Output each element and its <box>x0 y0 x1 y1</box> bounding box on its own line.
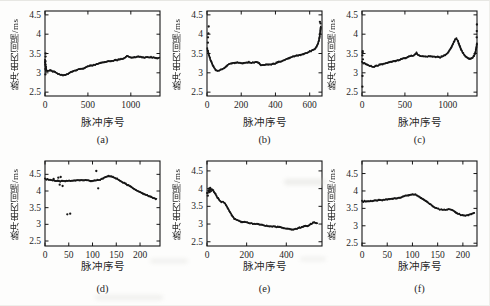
data-points <box>361 193 475 217</box>
x-axis-label: 脉冲序号 <box>362 114 477 129</box>
svg-text:2.5: 2.5 <box>346 87 358 97</box>
plot-frame <box>362 11 477 96</box>
svg-text:4.5: 4.5 <box>191 10 203 20</box>
scan-artifact <box>284 179 326 185</box>
svg-text:4.5: 4.5 <box>346 10 358 20</box>
svg-text:3: 3 <box>198 68 203 78</box>
svg-text:3.5: 3.5 <box>191 201 203 211</box>
subplot-c: 脉冲串内间隔/ms 2.533.544.505001000 脉冲序号 (c) <box>317 1 483 151</box>
plot-area-e: 2.533.544.50200400 <box>162 153 328 265</box>
svg-text:4: 4 <box>353 186 358 196</box>
svg-text:3: 3 <box>198 219 203 229</box>
subplot-f: 脉冲串内间隔/ms 2.533.544.5050100150200 脉冲序号 (… <box>317 153 483 306</box>
svg-text:3.5: 3.5 <box>29 203 41 213</box>
data-curve <box>207 189 318 229</box>
data-points <box>206 21 321 72</box>
plot-area-c: 2.533.544.505001000 <box>317 1 483 113</box>
svg-text:0: 0 <box>43 100 48 110</box>
data-curve <box>362 39 477 67</box>
data-points <box>44 170 157 216</box>
svg-text:4.5: 4.5 <box>191 166 203 176</box>
axis-ticks <box>45 11 160 96</box>
svg-text:2.5: 2.5 <box>346 238 358 248</box>
plot-area-f: 2.533.544.5050100150200 <box>317 153 483 265</box>
svg-text:4: 4 <box>353 29 358 39</box>
scan-artifact <box>300 257 326 261</box>
scan-artifact <box>95 295 163 300</box>
subplot-caption-e: (e) <box>207 283 322 294</box>
svg-text:2.5: 2.5 <box>29 87 41 97</box>
x-axis-label: 脉冲序号 <box>207 114 322 129</box>
x-axis-label: 脉冲序号 <box>362 258 477 273</box>
svg-text:0: 0 <box>205 100 210 110</box>
data-points <box>44 52 160 76</box>
subplot-caption-c: (c) <box>362 134 477 145</box>
plot-area-d: 2.533.544.5050100150200 <box>0 153 166 265</box>
svg-text:4.5: 4.5 <box>29 169 41 179</box>
subplot-e: 脉冲串内间隔/ms 2.533.544.50200400 脉冲序号 (e) <box>162 153 328 306</box>
svg-text:500: 500 <box>81 100 96 110</box>
subplot-caption-f: (f) <box>362 283 477 294</box>
svg-text:4: 4 <box>36 186 41 196</box>
svg-text:1000: 1000 <box>438 100 457 110</box>
subplot-caption-b: (b) <box>207 134 322 145</box>
data-points <box>206 187 317 231</box>
svg-text:3: 3 <box>353 68 358 78</box>
x-axis-label: 脉冲序号 <box>45 258 160 273</box>
plot-frame <box>45 11 160 96</box>
svg-text:500: 500 <box>398 100 413 110</box>
svg-text:4.5: 4.5 <box>29 10 41 20</box>
figure-panel: 脉冲串内间隔/ms 2.533.544.505001000 脉冲序号 (a) 脉… <box>0 0 490 306</box>
svg-text:3: 3 <box>353 221 358 231</box>
svg-text:0: 0 <box>360 100 365 110</box>
svg-text:3.5: 3.5 <box>346 49 358 59</box>
x-axis-label: 脉冲序号 <box>45 114 160 129</box>
subplot-b: 脉冲串内间隔/ms 2.533.544.50200400600 脉冲序号 (b) <box>162 1 328 151</box>
plot-area-a: 2.533.544.505001000 <box>0 1 166 113</box>
svg-text:3: 3 <box>36 68 41 78</box>
svg-text:3: 3 <box>36 219 41 229</box>
svg-text:2.5: 2.5 <box>29 236 41 246</box>
subplot-caption-d: (d) <box>45 283 160 294</box>
svg-text:4: 4 <box>198 29 203 39</box>
plot-frame <box>362 161 477 246</box>
subplot-caption-a: (a) <box>45 134 160 145</box>
data-curve <box>362 194 475 215</box>
svg-text:2.5: 2.5 <box>191 237 203 247</box>
svg-text:600: 600 <box>303 100 318 110</box>
axis-ticks <box>45 161 160 246</box>
plot-area-b: 2.533.544.50200400600 <box>162 1 328 113</box>
svg-text:400: 400 <box>268 100 283 110</box>
scan-artifact <box>150 259 188 263</box>
svg-text:3.5: 3.5 <box>191 49 203 59</box>
svg-text:1000: 1000 <box>121 100 140 110</box>
data-curve <box>207 26 320 71</box>
svg-text:3.5: 3.5 <box>346 203 358 213</box>
axis-ticks <box>362 11 477 96</box>
svg-text:4: 4 <box>36 29 41 39</box>
data-points <box>361 23 478 88</box>
svg-text:2.5: 2.5 <box>191 87 203 97</box>
subplot-d: 脉冲串内间隔/ms 2.533.544.5050100150200 脉冲序号 (… <box>0 153 166 306</box>
svg-text:3.5: 3.5 <box>29 49 41 59</box>
svg-text:200: 200 <box>234 100 249 110</box>
svg-text:4: 4 <box>198 184 203 194</box>
plot-frame <box>45 161 160 246</box>
data-curve <box>45 56 160 75</box>
subplot-a: 脉冲串内间隔/ms 2.533.544.505001000 脉冲序号 (a) <box>0 1 166 151</box>
svg-text:4.5: 4.5 <box>346 169 358 179</box>
axis-ticks <box>362 161 477 246</box>
